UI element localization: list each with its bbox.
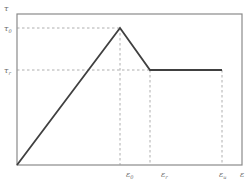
x-axis-label: ε — [240, 170, 244, 179]
x-tick-epsr: εr — [161, 170, 168, 180]
y-tick-tau0: τ0 — [4, 24, 12, 34]
y-tick-taur: τr — [4, 66, 11, 76]
stress-strain-diagram: τ τ0 τr ε0 εr εu ε — [0, 0, 252, 186]
x-tick-eps0: ε0 — [126, 170, 134, 180]
guide-lines — [17, 28, 222, 165]
x-tick-epsu: εu — [219, 170, 227, 180]
y-axis-label: τ — [4, 4, 9, 13]
plot-frame — [17, 14, 242, 165]
stress-strain-curve — [17, 28, 222, 165]
